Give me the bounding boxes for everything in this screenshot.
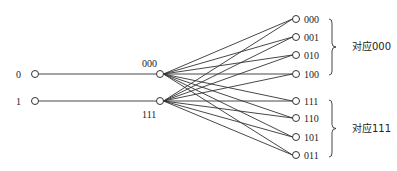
diagram-svg: 01000111000001010100111110101011对应000对应1… <box>0 0 397 171</box>
output-node <box>293 115 300 122</box>
output-node <box>293 34 300 41</box>
output-node <box>293 134 300 141</box>
channel-edge <box>164 74 293 155</box>
output-node <box>293 52 300 59</box>
right-brace-icon <box>329 19 336 75</box>
codeword-label: 000 <box>142 58 157 69</box>
group-label: 对应111 <box>352 122 391 134</box>
codeword-node <box>157 98 164 105</box>
channel-edge <box>164 19 293 101</box>
output-label: 100 <box>304 69 319 80</box>
group-braces <box>329 19 336 157</box>
channel-edge <box>164 101 293 137</box>
input-node <box>32 98 39 105</box>
output-node <box>293 16 300 23</box>
channel-edge <box>164 74 293 118</box>
output-label: 001 <box>304 32 319 43</box>
code-mapping-diagram: 01000111000001010100111110101011对应000对应1… <box>0 0 397 171</box>
right-brace-icon <box>329 100 336 157</box>
codeword-node <box>157 71 164 78</box>
edges <box>39 19 293 155</box>
input-node <box>32 71 39 78</box>
group-label: 对应000 <box>352 40 391 52</box>
channel-edge <box>164 55 293 74</box>
input-label: 1 <box>16 96 21 107</box>
output-label: 000 <box>304 14 319 25</box>
nodes <box>32 16 300 159</box>
output-node <box>293 152 300 159</box>
output-label: 010 <box>304 50 319 61</box>
output-node <box>293 71 300 78</box>
codeword-label: 111 <box>142 109 156 120</box>
output-label: 101 <box>304 132 319 143</box>
output-label: 011 <box>304 150 319 161</box>
output-node <box>293 98 300 105</box>
channel-edge <box>164 37 293 74</box>
output-label: 110 <box>304 113 319 124</box>
input-label: 0 <box>16 69 21 80</box>
output-label: 111 <box>304 96 318 107</box>
